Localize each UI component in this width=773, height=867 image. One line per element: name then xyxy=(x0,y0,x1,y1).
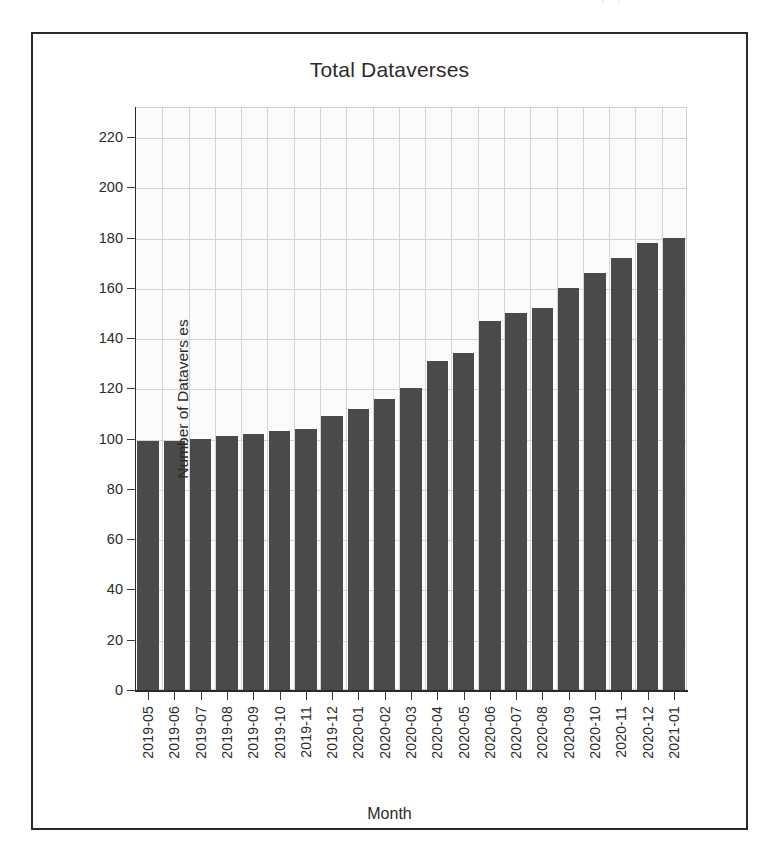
x-axis-tick xyxy=(674,691,675,700)
y-axis-tick-label: 120 xyxy=(63,380,123,396)
bar xyxy=(321,416,343,690)
y-axis-tick xyxy=(127,137,136,138)
x-axis-tick-label: 2019-10 xyxy=(272,706,290,759)
x-axis-tick xyxy=(148,691,149,700)
x-axis-tick xyxy=(227,691,228,700)
x-axis-title: Month xyxy=(33,805,746,823)
y-axis-tick-label: 180 xyxy=(63,230,123,246)
y-axis-tick xyxy=(127,288,136,289)
x-axis-tick-label: 2020-09 xyxy=(561,706,579,759)
x-axis-tick-label: 2020-10 xyxy=(587,706,605,759)
y-axis-tick xyxy=(127,238,136,239)
x-axis-tick-label: 2019-08 xyxy=(219,706,237,759)
x-axis-tick xyxy=(437,691,438,700)
x-axis-tick xyxy=(253,691,254,700)
y-axis-tick-label: 60 xyxy=(63,531,123,547)
bar xyxy=(558,288,580,690)
x-axis-tick xyxy=(358,691,359,700)
chart-title: Total Dataverses xyxy=(33,58,746,82)
bar xyxy=(611,258,633,690)
bar xyxy=(374,399,396,691)
y-axis-tick-labels: 020406080100120140160180200220 xyxy=(57,34,123,828)
bar xyxy=(637,243,659,690)
y-axis-tick-label: 220 xyxy=(63,129,123,145)
bar xyxy=(479,321,501,690)
x-axis-tick-label: 2019-06 xyxy=(166,706,184,759)
x-axis-tick-label: 2019-05 xyxy=(140,706,158,759)
bar xyxy=(137,441,159,690)
x-axis-tick-label: 2020-04 xyxy=(429,706,447,759)
y-axis-title: Number of Datavers es xyxy=(174,289,192,509)
x-axis-tick-label: 2020-02 xyxy=(377,706,395,759)
bar xyxy=(532,308,554,690)
y-axis-tick xyxy=(127,640,136,641)
x-axis-tick-label: 2020-07 xyxy=(508,706,526,759)
bar xyxy=(453,353,475,690)
y-axis-tick-label: 0 xyxy=(63,682,123,698)
x-axis-tick xyxy=(280,691,281,700)
x-axis-tick xyxy=(332,691,333,700)
x-axis-tick xyxy=(174,691,175,700)
bar xyxy=(243,434,265,690)
y-axis-tick xyxy=(127,187,136,188)
x-axis-tick xyxy=(385,691,386,700)
plot-area: Number of Datavers es xyxy=(135,107,687,690)
bar xyxy=(216,436,238,690)
x-axis-tick-label: 2019-07 xyxy=(193,706,211,759)
bar xyxy=(190,439,212,690)
x-axis-tick xyxy=(648,691,649,700)
x-axis-tick-label: 2020-08 xyxy=(534,706,552,759)
y-axis-tick-label: 40 xyxy=(63,581,123,597)
bar xyxy=(400,388,422,690)
y-axis-tick-label: 200 xyxy=(63,179,123,195)
x-axis-tick xyxy=(595,691,596,700)
x-axis-tick-label: 2020-06 xyxy=(482,706,500,759)
y-axis-tick-label: 20 xyxy=(63,632,123,648)
x-axis-tick-label: 2020-11 xyxy=(613,706,631,758)
y-axis-tick xyxy=(127,439,136,440)
y-axis-tick xyxy=(127,388,136,389)
bar xyxy=(584,273,606,690)
bar-series xyxy=(135,107,687,690)
scan-artifact-right-text: (...) xyxy=(600,0,622,1)
y-axis-tick xyxy=(127,589,136,590)
scan-edge-artifact: ... (...) xyxy=(0,0,773,22)
bar xyxy=(663,238,685,690)
y-axis-tick xyxy=(127,690,136,691)
bar xyxy=(269,431,291,690)
x-axis-tick xyxy=(306,691,307,700)
x-axis-tick-label: 2020-12 xyxy=(640,706,658,759)
bar xyxy=(348,409,370,690)
bar xyxy=(295,429,317,690)
x-axis-tick xyxy=(621,691,622,700)
y-axis-tick-label: 140 xyxy=(63,330,123,346)
y-axis-tick xyxy=(127,539,136,540)
x-axis-tick xyxy=(464,691,465,700)
scan-artifact-left-text: ... xyxy=(118,0,130,1)
y-axis-tick xyxy=(127,489,136,490)
figure-frame: Total Dataverses Number of Datavers es 0… xyxy=(31,32,748,830)
x-axis-tick-label: 2021-01 xyxy=(666,706,684,759)
y-axis-tick-label: 160 xyxy=(63,280,123,296)
x-axis-tick xyxy=(411,691,412,700)
y-axis-tick xyxy=(127,338,136,339)
x-axis-tick xyxy=(490,691,491,700)
x-axis-tick-label: 2019-12 xyxy=(324,706,342,759)
x-axis-tick xyxy=(542,691,543,700)
x-axis-tick-label: 2019-09 xyxy=(245,706,263,759)
x-axis-tick-label: 2019-11 xyxy=(298,706,316,758)
y-axis-tick-label: 100 xyxy=(63,431,123,447)
y-axis-line xyxy=(135,107,136,690)
x-axis-tick-label: 2020-03 xyxy=(403,706,421,759)
x-axis-tick xyxy=(201,691,202,700)
x-axis-tick xyxy=(569,691,570,700)
x-axis-tick-label: 2020-05 xyxy=(456,706,474,759)
y-axis-tick-label: 80 xyxy=(63,481,123,497)
bar xyxy=(505,313,527,690)
bar xyxy=(427,361,449,690)
x-axis-tick xyxy=(516,691,517,700)
x-axis-tick-label: 2020-01 xyxy=(350,706,368,759)
